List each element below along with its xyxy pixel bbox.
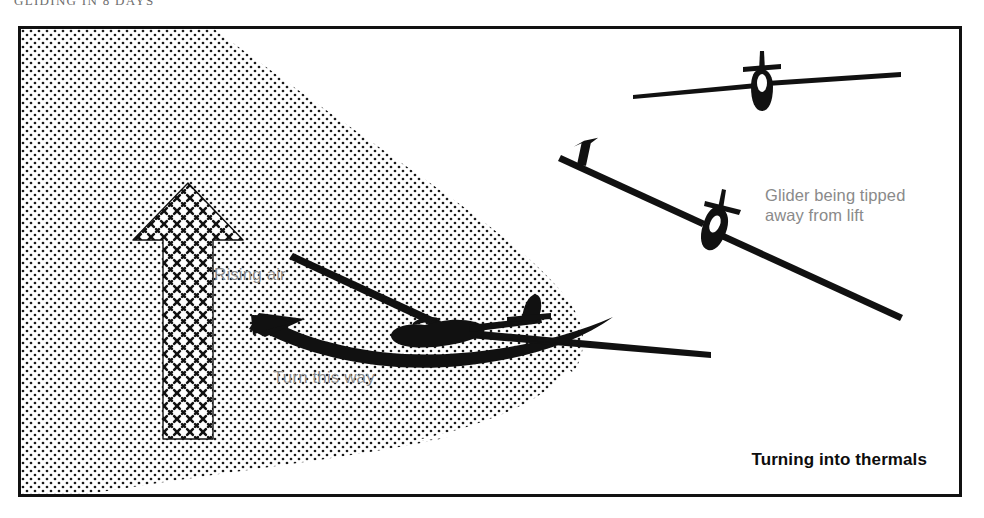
figure-artwork: Rising air Turn this way Glider being ti… — [21, 29, 959, 494]
figure-vector-artwork — [21, 29, 959, 494]
label-glider-being-tipped-away-from-lift: Glider being tipped away from lift — [765, 185, 905, 225]
glider-top — [633, 51, 901, 111]
label-rising-air: Rising air — [214, 265, 286, 286]
figure-frame: Rising air Turn this way Glider being ti… — [18, 26, 962, 497]
label-turn-this-way: Turn this way — [273, 368, 375, 389]
glider-tipped — [558, 155, 903, 321]
figure-caption: Turning into thermals — [751, 450, 927, 470]
running-head: GLIDING IN 8 DAYS — [14, 0, 154, 9]
